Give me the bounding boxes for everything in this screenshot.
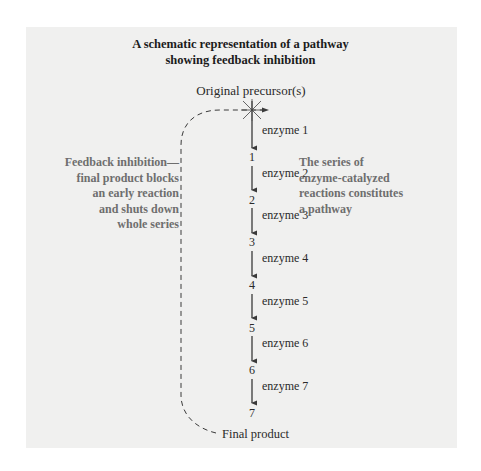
note-line: enzyme-catalyzed: [299, 171, 403, 187]
note-line: reactions constitutes: [299, 186, 403, 202]
feedback-inhibition-note: Feedback inhibition— final product block…: [65, 155, 179, 233]
final-product-label: Final product: [222, 427, 289, 442]
product-number: 7: [247, 406, 257, 421]
enzyme-label: enzyme 1: [262, 123, 308, 138]
note-line: a pathway: [299, 202, 403, 218]
pathway-arrows: [0, 0, 481, 471]
pathway-note: The series of enzyme-catalyzed reactions…: [299, 155, 403, 217]
product-number: 4: [247, 278, 257, 293]
note-line: final product blocks: [65, 171, 179, 187]
note-line: an early reaction: [65, 186, 179, 202]
note-line: and shuts down: [65, 202, 179, 218]
product-number: 1: [247, 150, 257, 165]
enzyme-label: enzyme 4: [262, 251, 308, 266]
product-number: 5: [247, 321, 257, 336]
enzyme-label: enzyme 7: [262, 379, 308, 394]
note-line: Feedback inhibition—: [65, 155, 179, 171]
product-number: 2: [247, 193, 257, 208]
enzyme-label: enzyme 5: [262, 294, 308, 309]
note-line: whole series: [65, 217, 179, 233]
product-number: 3: [247, 235, 257, 250]
note-line: The series of: [299, 155, 403, 171]
product-number: 6: [247, 363, 257, 378]
enzyme-label: enzyme 6: [262, 336, 308, 351]
